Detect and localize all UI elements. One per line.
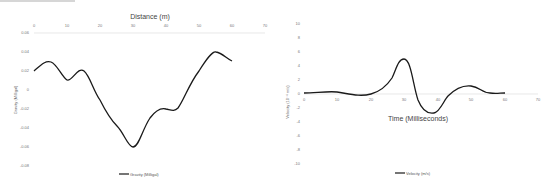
charts-canvas: Distance (m) 0 10 20 30 40 50 60 70 0.06…: [0, 0, 555, 185]
svg-text:30: 30: [131, 23, 136, 28]
gravity-chart: Distance (m) 0 10 20 30 40 50 60 70 0.06…: [13, 13, 268, 177]
svg-text:20: 20: [369, 97, 374, 102]
left-y-axis-title: Gravity (Milligal): [13, 85, 18, 114]
svg-text:0.02: 0.02: [21, 68, 30, 73]
svg-text:30: 30: [402, 97, 407, 102]
svg-text:-0.08: -0.08: [20, 163, 30, 168]
svg-text:0: 0: [33, 23, 36, 28]
legend-label: Gravity (Milligal): [130, 172, 159, 177]
svg-text:2: 2: [298, 77, 301, 82]
svg-text:-8: -8: [296, 147, 300, 152]
svg-text:40: 40: [164, 23, 169, 28]
left-x-ticks: 0 10 20 30 40 50 60 70: [33, 23, 268, 28]
legend-label: Velocity (m/s): [406, 171, 431, 176]
svg-text:50: 50: [197, 23, 202, 28]
svg-text:-0.04: -0.04: [20, 125, 30, 130]
svg-text:0.04: 0.04: [21, 49, 30, 54]
svg-text:-2: -2: [296, 105, 300, 110]
svg-text:4: 4: [298, 63, 301, 68]
svg-text:-4: -4: [296, 119, 300, 124]
svg-text:40: 40: [436, 97, 441, 102]
left-legend: Gravity (Milligal): [119, 172, 159, 177]
svg-text:20: 20: [98, 23, 103, 28]
svg-text:-0.06: -0.06: [20, 144, 30, 149]
svg-text:50: 50: [469, 97, 474, 102]
right-y-axis-title: Velocity (10⁻⁴ m/s): [285, 85, 290, 119]
left-y-ticks: 0.06 0.04 0.02 0 -0.02 -0.04 -0.06 -0.08: [20, 30, 30, 168]
left-x-axis-title: Distance (m): [130, 13, 170, 21]
right-y-ticks: 10 8 6 4 2 0 -2 -4 -6 -8 -10: [294, 21, 301, 166]
svg-text:8: 8: [298, 35, 301, 40]
svg-text:10: 10: [296, 21, 301, 26]
velocity-line: [304, 59, 505, 113]
svg-text:60: 60: [230, 23, 235, 28]
svg-text:-0.02: -0.02: [20, 106, 30, 111]
svg-text:0: 0: [298, 91, 301, 96]
svg-text:0.06: 0.06: [21, 30, 30, 35]
svg-text:70: 70: [263, 23, 268, 28]
svg-text:10: 10: [335, 97, 340, 102]
svg-text:0: 0: [27, 87, 30, 92]
right-legend: Velocity (m/s): [395, 171, 431, 176]
gravity-line: [34, 52, 232, 147]
svg-text:60: 60: [503, 97, 508, 102]
svg-text:-10: -10: [294, 161, 301, 166]
svg-text:6: 6: [298, 49, 301, 54]
svg-text:10: 10: [65, 23, 70, 28]
velocity-chart: 0 10 20 30 40 50 60 70 10 8 6 4 2 0 -2 -…: [285, 21, 541, 176]
svg-text:70: 70: [536, 97, 541, 102]
right-x-axis-title: Time (Milliseconds): [388, 115, 448, 123]
svg-text:-6: -6: [296, 133, 300, 138]
svg-text:0: 0: [303, 97, 306, 102]
right-x-ticks: 0 10 20 30 40 50 60 70: [303, 97, 541, 102]
